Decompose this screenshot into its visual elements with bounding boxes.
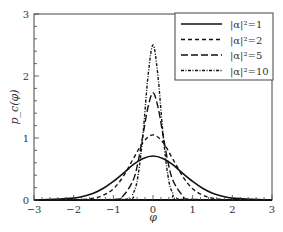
series-line-3 xyxy=(34,93,272,200)
series-line-1 xyxy=(34,156,272,200)
y-tick-label: 0 xyxy=(23,195,29,206)
x-axis-label: φ xyxy=(149,211,157,224)
x-tick-label: 2 xyxy=(229,204,235,215)
phase-distribution-chart: −3−2−101230123 |α|²=1|α|²=2|α|²=5|α|²=10… xyxy=(0,0,283,232)
y-tick-label: 1 xyxy=(23,133,29,144)
legend-label-3: |α|²=5 xyxy=(230,50,262,62)
x-tick-label: 1 xyxy=(189,204,195,215)
y-tick-label: 2 xyxy=(23,71,29,82)
legend-label-4: |α|²=10 xyxy=(230,66,269,78)
y-axis-label: p_c(φ) xyxy=(8,90,21,125)
legend-label-1: |α|²=1 xyxy=(230,19,262,31)
legend: |α|²=1|α|²=2|α|²=5|α|²=10 xyxy=(175,13,273,80)
x-tick-label: −2 xyxy=(66,204,81,215)
x-tick-label: 3 xyxy=(269,204,275,215)
legend-label-2: |α|²=2 xyxy=(230,35,262,47)
x-tick-label: −1 xyxy=(106,204,121,215)
y-tick-label: 3 xyxy=(23,9,29,20)
series-line-2 xyxy=(34,135,272,200)
